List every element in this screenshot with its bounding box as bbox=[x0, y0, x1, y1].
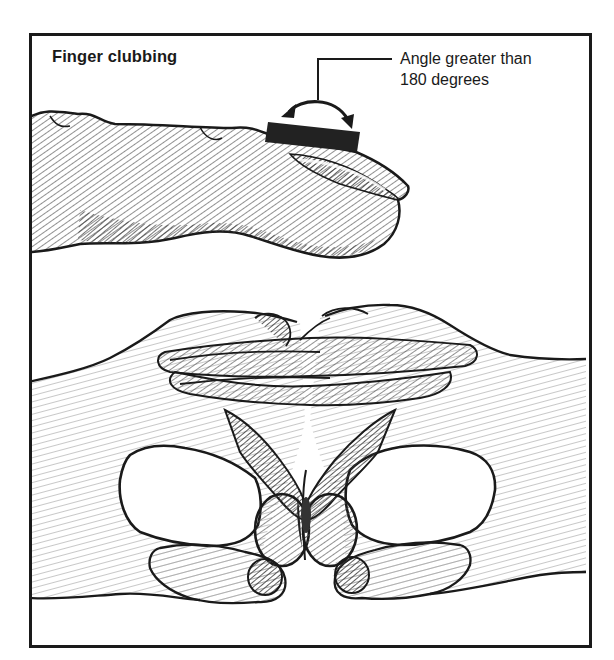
left-clubbed-fingertip bbox=[255, 494, 309, 566]
callout-leader-line bbox=[318, 59, 392, 100]
left-thumb-nail bbox=[248, 559, 282, 595]
schamroth-window-hands-illustration bbox=[28, 305, 586, 603]
illustration-canvas bbox=[0, 0, 614, 660]
angle-callout-label: Angle greater than 180 degrees bbox=[400, 48, 532, 90]
figure-title: Finger clubbing bbox=[52, 47, 177, 66]
callout-line-1: Angle greater than bbox=[400, 48, 532, 69]
clubbed-finger-illustration bbox=[28, 112, 408, 258]
right-thumb-nail bbox=[335, 557, 369, 593]
callout-line-2: 180 degrees bbox=[400, 69, 532, 90]
right-clubbed-fingertip bbox=[303, 494, 357, 566]
